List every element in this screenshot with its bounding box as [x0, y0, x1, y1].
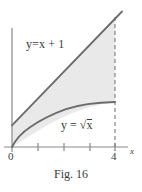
radical-overbar — [87, 119, 93, 120]
plot-svg — [0, 0, 142, 192]
sqrt-symbol-group: √x — [80, 118, 93, 133]
curve-label-prefix: y = — [61, 118, 80, 132]
figure-caption: Fig. 16 — [0, 167, 142, 182]
x-tick-label-4: 4 — [111, 150, 117, 162]
figure-container: y=x + 1 y = √x x 0 4 Fig. 16 — [0, 0, 142, 192]
x-axis-label: x — [130, 146, 134, 156]
x-tick-label-0: 0 — [8, 150, 14, 162]
line-equation-label: y=x + 1 — [26, 37, 64, 52]
radicand: x — [86, 118, 92, 132]
curve-equation-label: y = √x — [61, 118, 92, 133]
